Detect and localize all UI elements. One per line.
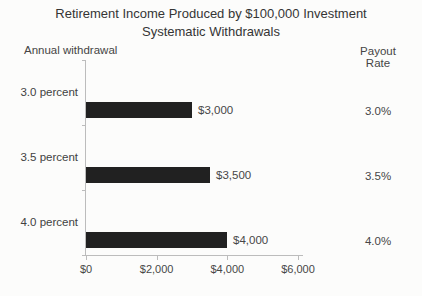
category-label: 3.0 percent xyxy=(6,86,78,98)
payout-rate-header: Payout Rate xyxy=(347,45,409,69)
x-axis-tick xyxy=(86,256,87,260)
chart-title-line2: Systematic Withdrawals xyxy=(0,23,422,41)
chart-title-line1: Retirement Income Produced by $100,000 I… xyxy=(0,5,422,23)
y-axis-tick xyxy=(82,60,85,61)
y-axis-tick xyxy=(82,125,85,126)
category-label: 3.5 percent xyxy=(6,151,78,163)
chart-title: Retirement Income Produced by $100,000 I… xyxy=(0,5,422,40)
payout-value: 4.0% xyxy=(352,235,404,247)
retirement-income-chart: Retirement Income Produced by $100,000 I… xyxy=(0,0,422,296)
annual-withdrawal-header: Annual withdrawal xyxy=(24,44,117,56)
x-axis-tick xyxy=(227,256,228,260)
x-tick-label: $4,000 xyxy=(199,263,255,275)
x-axis-tick xyxy=(157,256,158,260)
y-axis-line xyxy=(85,60,86,255)
value-label: $3,500 xyxy=(216,169,251,181)
bar xyxy=(86,102,192,118)
x-tick-label: $6,000 xyxy=(270,263,326,275)
bar xyxy=(86,232,227,248)
y-axis-tick xyxy=(82,255,85,256)
x-tick-label: $0 xyxy=(58,263,114,275)
bar xyxy=(86,167,210,183)
value-label: $3,000 xyxy=(198,104,233,116)
x-axis-tick xyxy=(298,256,299,260)
x-tick-label: $2,000 xyxy=(129,263,185,275)
x-axis-line xyxy=(85,255,303,256)
value-label: $4,000 xyxy=(233,234,268,246)
category-label: 4.0 percent xyxy=(6,216,78,228)
payout-value: 3.5% xyxy=(352,170,404,182)
payout-value: 3.0% xyxy=(352,105,404,117)
y-axis-tick xyxy=(82,190,85,191)
